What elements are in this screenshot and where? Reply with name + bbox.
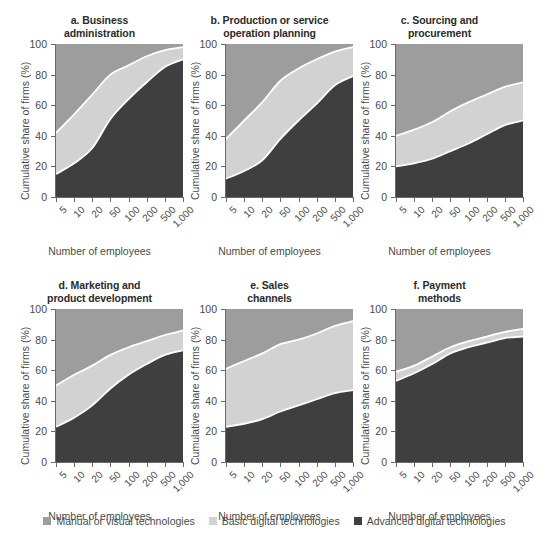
legend-item-1[interactable]: Basic digital technologies	[209, 515, 340, 527]
x-tick-mark	[317, 198, 318, 202]
y-tick-mark	[221, 44, 225, 45]
x-tick-mark	[396, 198, 397, 202]
y-tick-mark	[221, 197, 225, 198]
y-tick-mark	[391, 105, 395, 106]
x-tick-mark	[129, 463, 130, 467]
panel-title-c: c. Sourcing andprocurement	[348, 14, 531, 39]
plot-area-c	[396, 44, 525, 199]
y-tick-mark	[51, 401, 55, 402]
x-tick-mark	[110, 198, 111, 202]
y-tick-mark	[391, 166, 395, 167]
x-tick-mark	[56, 463, 57, 467]
plot-area-a	[56, 44, 185, 199]
y-tick-mark	[221, 340, 225, 341]
y-tick-mark	[51, 44, 55, 45]
x-tick-mark	[396, 463, 397, 467]
x-tick-mark	[450, 198, 451, 202]
x-tick-mark	[414, 198, 415, 202]
y-tick-mark	[391, 309, 395, 310]
legend-item-2[interactable]: Advanced digital technologies	[354, 515, 506, 527]
plot-area-e	[226, 309, 355, 464]
panel-d: d. Marketing andproduct development02040…	[8, 279, 191, 524]
x-tick-mark	[335, 198, 336, 202]
x-tick-mark	[165, 198, 166, 202]
y-axis-title: Cumulative share of firms (%)	[189, 62, 201, 200]
panel-title-e: e. Saleschannels	[178, 279, 361, 304]
x-tick-mark	[280, 198, 281, 202]
y-axis-line	[395, 309, 396, 463]
panel-title-b: b. Production or serviceoperation planni…	[178, 14, 361, 39]
legend-label: Advanced digital technologies	[367, 515, 506, 527]
y-tick-label: 100	[178, 303, 217, 315]
y-tick-mark	[391, 197, 395, 198]
y-axis-line	[55, 44, 56, 198]
panel-title-line: a. Business	[8, 14, 191, 27]
plot-area-d	[56, 309, 185, 464]
x-tick-mark	[262, 198, 263, 202]
x-tick-mark	[226, 463, 227, 467]
y-tick-mark	[391, 136, 395, 137]
y-tick-mark	[391, 75, 395, 76]
y-tick-mark	[51, 136, 55, 137]
y-tick-mark	[221, 370, 225, 371]
panel-title-f: f. Paymentmethods	[348, 279, 531, 304]
x-tick-mark	[469, 198, 470, 202]
panel-title-line: f. Payment	[348, 279, 531, 292]
y-tick-mark	[221, 105, 225, 106]
y-tick-mark	[391, 401, 395, 402]
y-tick-mark	[51, 105, 55, 106]
y-tick-mark	[391, 44, 395, 45]
y-tick-mark	[221, 136, 225, 137]
x-tick-mark	[432, 463, 433, 467]
y-tick-label: 100	[178, 38, 217, 50]
y-tick-mark	[51, 197, 55, 198]
x-tick-mark	[226, 198, 227, 202]
legend-swatch-icon	[209, 517, 217, 525]
y-tick-label: 100	[8, 38, 47, 50]
y-tick-mark	[391, 462, 395, 463]
x-tick-mark	[262, 463, 263, 467]
x-tick-mark	[56, 198, 57, 202]
x-tick-mark	[92, 463, 93, 467]
panel-title-line: d. Marketing and	[8, 279, 191, 292]
y-tick-mark	[51, 370, 55, 371]
x-tick-mark	[505, 198, 506, 202]
y-tick-mark	[221, 309, 225, 310]
x-tick-mark	[74, 463, 75, 467]
y-axis-line	[225, 44, 226, 198]
legend-label: Manual or visual technologies	[56, 515, 194, 527]
x-tick-mark	[165, 463, 166, 467]
y-tick-mark	[51, 462, 55, 463]
y-axis-title: Cumulative share of firms (%)	[19, 327, 31, 465]
y-tick-mark	[51, 431, 55, 432]
x-tick-mark	[147, 463, 148, 467]
x-tick-mark	[505, 463, 506, 467]
x-axis-title: Number of employees	[8, 245, 191, 257]
x-axis-title: Number of employees	[348, 245, 531, 257]
figure-stacked-area-panels: a. Businessadministration020406080100510…	[0, 0, 549, 545]
legend-item-0[interactable]: Manual or visual technologies	[43, 515, 194, 527]
y-axis-title: Cumulative share of firms (%)	[189, 327, 201, 465]
plot-area-b	[226, 44, 355, 199]
x-tick-mark	[487, 198, 488, 202]
x-tick-mark	[432, 198, 433, 202]
y-tick-mark	[221, 462, 225, 463]
x-tick-mark	[469, 463, 470, 467]
x-tick-mark	[299, 198, 300, 202]
y-tick-mark	[221, 75, 225, 76]
x-tick-mark	[244, 463, 245, 467]
panel-title-d: d. Marketing andproduct development	[8, 279, 191, 304]
panel-title-line: c. Sourcing and	[348, 14, 531, 27]
y-tick-mark	[51, 340, 55, 341]
panel-f: f. Paymentmethods02040608010051020501002…	[348, 279, 531, 524]
x-axis-title: Number of employees	[178, 245, 361, 257]
legend-swatch-icon	[43, 517, 51, 525]
y-tick-mark	[391, 340, 395, 341]
y-tick-mark	[391, 370, 395, 371]
y-axis-line	[55, 309, 56, 463]
panel-title-line: b. Production or service	[178, 14, 361, 27]
x-tick-mark	[280, 463, 281, 467]
chart-legend: Manual or visual technologiesBasic digit…	[0, 515, 549, 527]
x-tick-mark	[450, 463, 451, 467]
y-tick-mark	[221, 166, 225, 167]
